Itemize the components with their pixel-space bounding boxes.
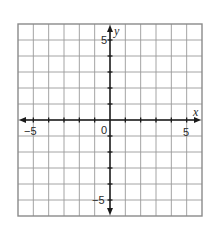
- y-axis-up-arrow-icon: [107, 25, 113, 32]
- origin-label: 0: [101, 124, 107, 136]
- coordinate-plane: y x 0 −5 5 5 −5: [0, 0, 214, 233]
- y-axis-down-arrow-icon: [107, 208, 113, 215]
- x-axis-left-arrow-icon: [19, 117, 26, 123]
- x-tick-label-neg5: −5: [24, 125, 37, 137]
- x-tick-label-pos5: 5: [183, 126, 189, 138]
- y-axis-label: y: [113, 24, 120, 38]
- x-axis-label: x: [192, 105, 199, 119]
- y-tick-label-pos5: 5: [101, 34, 107, 46]
- y-tick-label-neg5: −5: [92, 194, 105, 206]
